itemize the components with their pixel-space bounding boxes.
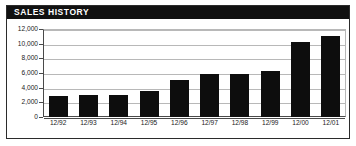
bar (170, 80, 189, 117)
y-axis-tick-label: 12,000 (0, 26, 38, 33)
bar (79, 95, 98, 117)
bar (291, 42, 310, 117)
bar (49, 96, 68, 117)
bar (230, 74, 249, 117)
bar (321, 36, 340, 117)
panel-title-bar: SALES HISTORY (7, 6, 349, 19)
bar (140, 91, 159, 117)
bar (261, 71, 280, 117)
y-axis-tick (39, 58, 43, 59)
y-axis-tick-label: 2,000 (0, 99, 38, 106)
panel-title: SALES HISTORY (7, 8, 89, 17)
y-axis-tick (39, 102, 43, 103)
bars-layer (43, 29, 346, 117)
y-axis-tick-label: 6,000 (0, 70, 38, 77)
bar (200, 74, 219, 117)
y-axis-tick-label: 4,000 (0, 85, 38, 92)
y-axis-tick (39, 29, 43, 30)
x-axis: 12/9212/9312/9412/9512/9612/9712/9812/99… (43, 120, 346, 132)
bar (109, 95, 128, 117)
y-axis-tick (39, 88, 43, 89)
y-axis-tick-label: 10,000 (0, 41, 38, 48)
y-axis-tick-label: 8,000 (0, 55, 38, 62)
y-axis-tick (39, 117, 43, 118)
x-axis-tick-label: 12/01 (309, 120, 353, 127)
y-axis-tick-label: 0 (0, 114, 38, 121)
y-axis-tick (39, 44, 43, 45)
y-axis-tick (39, 73, 43, 74)
sales-history-chart-panel: SALES HISTORY 12/9212/9312/9412/9512/961… (0, 0, 356, 146)
